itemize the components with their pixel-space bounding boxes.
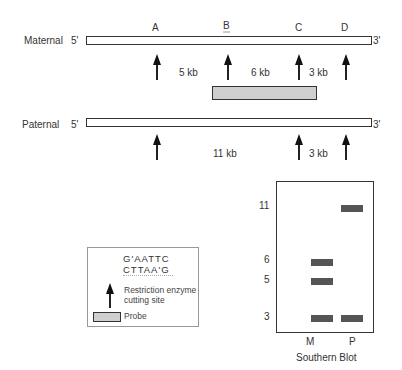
arrow-legend-line1: Restriction enzyme (124, 285, 196, 295)
paternal-3prime-label: 3' (373, 119, 380, 130)
probe-region (212, 86, 317, 100)
band-m-5kb (311, 278, 333, 285)
site-label-b: B (223, 20, 230, 33)
recognition-sequence-bottom: CTTAA'G (123, 264, 170, 275)
cut-site-arrow-icon (294, 54, 304, 80)
site-label-c: C (295, 22, 302, 33)
maternal-label: Maternal (24, 35, 63, 46)
cut-site-arrow-icon (223, 54, 233, 80)
probe-legend-swatch (93, 312, 121, 322)
probe-legend-label: Probe (124, 311, 147, 321)
fragment-label: 3 kb (309, 148, 328, 159)
paternal-dna-strand (86, 118, 372, 127)
site-label-a: A (152, 22, 159, 33)
size-label-3: 3 (264, 311, 270, 322)
fragment-label: 11 kb (213, 148, 237, 159)
maternal-dna-strand (86, 36, 372, 45)
paternal-5prime-label: 5' (71, 119, 78, 130)
fragment-label: 6 kb (251, 67, 270, 78)
paternal-label: Paternal (22, 119, 59, 130)
southern-blot-title: Southern Blot (296, 352, 357, 363)
lane-label-p: P (349, 336, 356, 347)
size-label-5: 5 (264, 274, 270, 285)
cut-site-arrow-icon (105, 283, 115, 308)
lane-label-m: M (306, 336, 314, 347)
legend-box: G'AATTC CTTAA'G Restriction enzyme cutti… (87, 247, 199, 327)
arrow-legend-line2: cutting site (124, 295, 196, 305)
band-m-3kb (311, 315, 333, 322)
band-p-11kb (341, 205, 363, 212)
fragment-label: 5 kb (179, 67, 198, 78)
site-label-d: D (341, 22, 348, 33)
maternal-5prime-label: 5' (71, 35, 78, 46)
cut-site-arrow-icon (152, 134, 162, 160)
fragment-label: 3 kb (309, 67, 328, 78)
recognition-sequence-top: G'AATTC (123, 253, 170, 264)
size-label-11: 11 (259, 200, 269, 211)
arrow-legend-text: Restriction enzyme cutting site (124, 285, 196, 305)
cut-site-arrow-icon (341, 134, 351, 160)
cut-site-arrow-icon (294, 134, 304, 160)
southern-blot-gel (276, 181, 374, 333)
size-label-6: 6 (264, 254, 270, 265)
divider (123, 275, 173, 276)
maternal-3prime-label: 3' (373, 35, 380, 46)
band-p-3kb (341, 315, 363, 322)
cut-site-arrow-icon (341, 54, 351, 80)
band-m-6kb (311, 259, 333, 266)
cut-site-arrow-icon (152, 54, 162, 80)
